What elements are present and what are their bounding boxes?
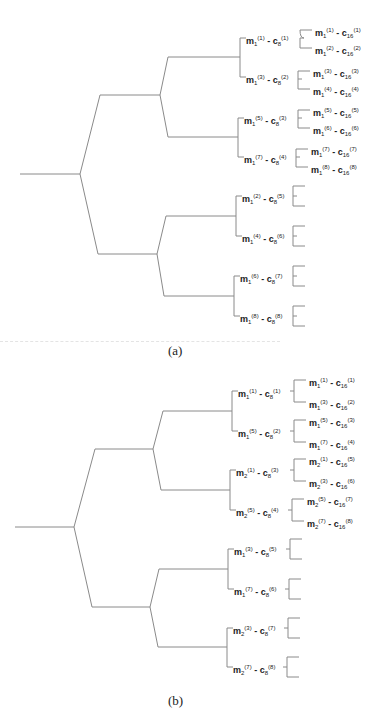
node-label-b-l3-5: m1(3) - c8(5) — [234, 544, 276, 560]
leaf-label-a-8: m1(8) - c16(8) — [311, 162, 357, 178]
node-label-b-l3-6: m1(7) - c8(6) — [234, 584, 276, 600]
leaf-label-b-4: m1(7) - c16(4) — [309, 437, 355, 453]
node-label-b-l3-2: m1(5) - c8(2) — [238, 426, 280, 442]
leaf-label-b-5: m2(1) - c16(5) — [309, 454, 355, 470]
node-label-a-l3-7: m1(6) - c8(7) — [240, 271, 282, 287]
node-label-b-l3-8: m2(7) - c8(8) — [233, 662, 275, 678]
leaf-label-b-8: m2(7) - c16(8) — [307, 516, 353, 532]
leaf-label-a-6: m1(6) - c16(6) — [313, 123, 359, 139]
leaf-label-a-3: m1(3) - c16(3) — [313, 66, 359, 82]
node-label-a-l3-6: m1(4) - c8(6) — [242, 231, 284, 247]
caption-b: (b) — [168, 693, 183, 709]
leaf-label-b-1: m1(1) - c16(1) — [309, 375, 355, 391]
node-label-a-l3-2: m1(3) - c8(2) — [246, 72, 288, 88]
leaf-label-b-6: m2(3) - c16(6) — [309, 476, 355, 492]
node-label-b-l3-1: m1(1) - c8(1) — [238, 386, 280, 402]
node-label-b-l3-3: m2(1) - c8(3) — [236, 465, 278, 481]
leaf-label-a-4: m1(4) - c16(4) — [313, 84, 359, 100]
leaf-label-a-1: m1(1) - c16(1) — [315, 25, 361, 41]
node-label-a-l3-4: m1(7) - c8(4) — [244, 152, 286, 168]
node-label-b-l3-7: m2(3) - c8(7) — [233, 623, 275, 639]
leaf-label-a-7: m1(7) - c16(7) — [311, 144, 357, 160]
separator-line — [0, 341, 280, 342]
leaf-label-b-2: m1(3) - c16(2) — [309, 397, 355, 413]
caption-a: (a) — [168, 343, 182, 359]
leaf-label-b-3: m1(5) - c16(3) — [309, 415, 355, 431]
node-label-a-l3-8: m1(8) - c8(8) — [240, 311, 282, 327]
leaf-label-b-7: m2(5) - c16(7) — [307, 494, 353, 510]
node-label-a-l3-1: m1(1) - c8(1) — [246, 33, 288, 49]
node-label-a-l3-3: m1(5) - c8(3) — [244, 113, 286, 129]
leaf-label-a-5: m1(5) - c16(5) — [313, 105, 359, 121]
leaf-label-a-2: m1(2) - c16(2) — [315, 43, 361, 59]
node-label-b-l3-4: m2(5) - c8(4) — [236, 505, 278, 521]
node-label-a-l3-5: m1(2) - c8(5) — [242, 191, 284, 207]
